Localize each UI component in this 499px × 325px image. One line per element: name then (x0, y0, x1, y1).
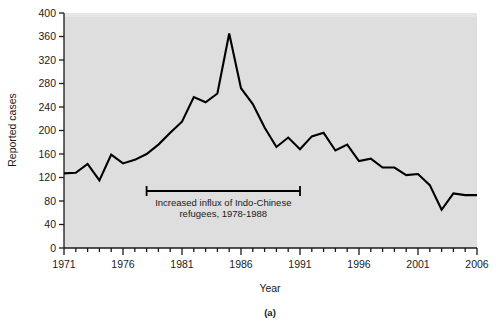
annotation-text-line-1: Increased influx of Indo-Chinese (155, 197, 291, 208)
x-tick-label: 1996 (347, 258, 371, 270)
y-tick-label: 200 (38, 124, 56, 136)
x-axis-major-ticks (64, 248, 477, 255)
reported-cases-line-chart: 04080120160200240280320360400 1971197619… (0, 0, 499, 325)
x-tick-label: 2001 (406, 258, 430, 270)
y-tick-label: 120 (38, 171, 56, 183)
x-tick-label: 2006 (465, 258, 489, 270)
y-tick-label: 0 (50, 242, 56, 254)
x-tick-label: 1986 (229, 258, 253, 270)
x-tick-label: 1976 (111, 258, 135, 270)
y-axis-ticks (59, 13, 64, 248)
x-axis-title: Year (259, 282, 281, 294)
x-tick-label: 1971 (52, 258, 76, 270)
y-axis-title: Reported cases (6, 93, 18, 167)
y-tick-label: 240 (38, 101, 56, 113)
y-tick-label: 160 (38, 148, 56, 160)
figure-panel-a: 04080120160200240280320360400 1971197619… (0, 0, 499, 325)
y-tick-label: 80 (44, 195, 56, 207)
annotation-text-line-2: refugees, 1978-1988 (179, 208, 267, 219)
panel-label: (a) (264, 307, 276, 318)
y-axis-tick-labels: 04080120160200240280320360400 (38, 7, 56, 254)
y-tick-label: 40 (44, 218, 56, 230)
y-tick-label: 320 (38, 54, 56, 66)
x-tick-label: 1981 (170, 258, 194, 270)
plot-background (64, 13, 477, 248)
x-tick-label: 1991 (288, 258, 312, 270)
y-tick-label: 400 (38, 7, 56, 19)
y-tick-label: 280 (38, 77, 56, 89)
y-tick-label: 360 (38, 30, 56, 42)
x-axis-tick-labels: 19711976198119861991199620012006 (52, 258, 489, 270)
plot-top-shade (64, 13, 477, 17)
